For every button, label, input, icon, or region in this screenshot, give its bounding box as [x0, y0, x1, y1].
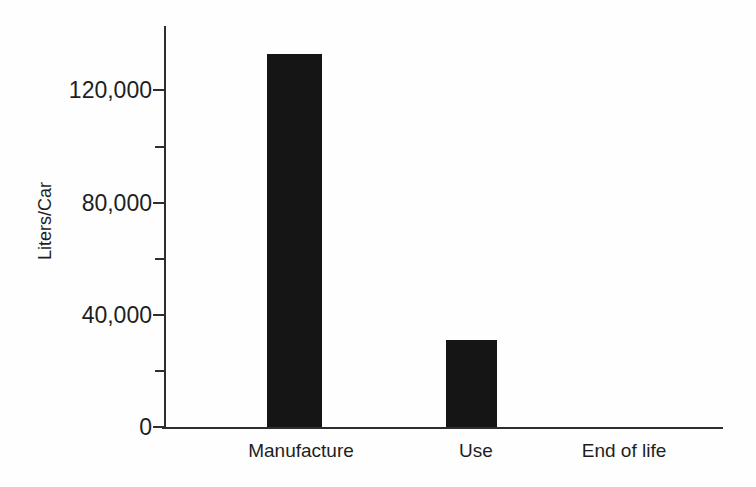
- y-major-tick: [153, 314, 166, 316]
- y-minor-tick: [155, 146, 166, 148]
- y-tick-label: 80,000: [82, 192, 152, 215]
- y-major-tick: [153, 426, 166, 428]
- x-axis-line: [162, 427, 723, 429]
- bar-use: [446, 340, 497, 427]
- y-axis-title: Liters/Car: [35, 182, 56, 260]
- y-major-tick: [153, 89, 166, 91]
- y-tick-label: 40,000: [82, 304, 152, 327]
- y-tick-label: 0: [139, 416, 152, 439]
- y-tick-label: 120,000: [69, 79, 152, 102]
- y-minor-tick: [155, 258, 166, 260]
- x-category-label: Manufacture: [248, 440, 354, 462]
- bar-manufacture: [267, 54, 322, 427]
- x-category-label: Use: [459, 440, 493, 462]
- x-category-label: End of life: [582, 440, 667, 462]
- y-axis-line: [164, 26, 166, 429]
- y-major-tick: [153, 202, 166, 204]
- y-minor-tick: [155, 370, 166, 372]
- bar-chart-figure: Liters/Car 040,00080,000120,000 Manufact…: [0, 0, 756, 487]
